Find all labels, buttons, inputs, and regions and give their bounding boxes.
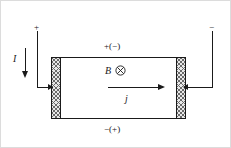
current-arrow-shaft bbox=[25, 48, 26, 73]
right-terminal-sign: − bbox=[209, 23, 214, 32]
left-terminal-sign: + bbox=[34, 23, 39, 32]
hall-bottom-polarity-label: −(+) bbox=[104, 125, 120, 134]
right-lead-vertical-wire bbox=[212, 31, 213, 88]
left-contact-arrow-icon bbox=[48, 84, 53, 90]
current-density-label: j bbox=[125, 93, 128, 104]
current-label: I bbox=[13, 53, 16, 64]
magnetic-field-group: B bbox=[105, 65, 126, 76]
right-lead-horizontal-wire bbox=[184, 87, 213, 88]
right-arrow-icon bbox=[158, 84, 165, 90]
right-contact-arrow-icon bbox=[183, 84, 188, 90]
cross-in-circle-icon bbox=[115, 65, 126, 76]
down-arrow-icon bbox=[22, 71, 28, 78]
hall-effect-diagram: + − I B j +(−) −(+) bbox=[0, 0, 231, 148]
magnetic-field-label: B bbox=[105, 66, 111, 76]
hall-top-polarity-label: +(−) bbox=[104, 42, 120, 51]
current-density-arrow-shaft bbox=[108, 87, 160, 88]
left-lead-vertical-wire bbox=[37, 31, 38, 88]
